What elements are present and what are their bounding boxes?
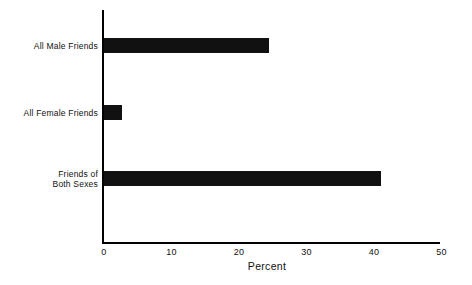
x-axis-title: Percent (0, 260, 472, 272)
x-axis-title-text: Percent (248, 260, 286, 272)
x-tick-label-10: 10 (166, 247, 177, 258)
bar-all-female-friends (104, 105, 122, 120)
category-label-group: All Male Friends All Female Friends Frie… (0, 10, 98, 242)
category-label-all-male-friends: All Male Friends (2, 41, 98, 51)
x-tick-label-30: 30 (301, 247, 312, 258)
category-label-friends-of-both-sexes: Friends of Both Sexes (2, 169, 98, 189)
x-axis-line (102, 242, 440, 244)
category-label-all-female-friends: All Female Friends (2, 108, 98, 118)
bar-all-male-friends (104, 38, 269, 53)
plot-area (104, 10, 440, 242)
x-tick-label-group: 0 10 20 30 40 50 (0, 247, 472, 261)
x-tick-label-40: 40 (369, 247, 380, 258)
x-tick-label-0: 0 (101, 247, 106, 258)
bar-friends-of-both-sexes (104, 171, 381, 186)
x-tick-label-20: 20 (234, 247, 245, 258)
x-tick-label-50: 50 (436, 247, 447, 258)
bar-chart: All Male Friends All Female Friends Frie… (0, 0, 472, 285)
